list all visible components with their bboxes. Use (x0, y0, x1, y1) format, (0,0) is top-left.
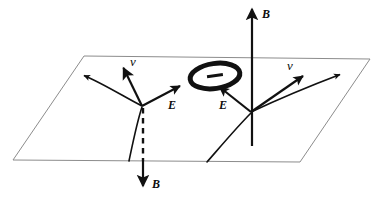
particle-path-right (207, 113, 251, 162)
physics-diagram-figure: B B E E v v (0, 0, 384, 201)
label-magnetic-field-up: B (262, 8, 270, 20)
velocity-right-arrow (251, 76, 303, 112)
diagram-canvas (0, 0, 384, 201)
particle-path-left (129, 107, 142, 161)
negative-charge-ring (189, 60, 242, 92)
label-velocity-left: v (130, 55, 136, 68)
trajectory-left-arrow (84, 76, 142, 107)
label-electric-field-right: E (219, 99, 227, 111)
label-magnetic-field-down: B (152, 178, 160, 190)
label-electric-field-left: E (168, 99, 176, 111)
label-velocity-right: v (287, 59, 293, 72)
